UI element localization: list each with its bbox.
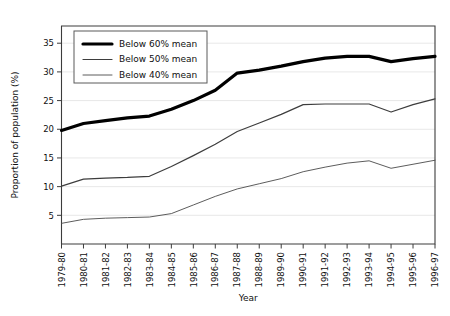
x-axis-ticks: 1979-801980-811981-821982-831983-841984-… [57,244,441,288]
x-tick-label: 1996-97 [430,252,440,288]
y-axis-ticks: 5101520253035 [43,38,61,220]
x-tick-label: 1995-96 [408,252,418,288]
x-tick-label: 1991-92 [320,252,330,288]
x-tick-label: 1986-87 [210,252,220,288]
x-tick-label: 1983-84 [145,252,155,288]
legend-label-0: Below 60% mean [119,39,197,49]
legend-label-2: Below 40% mean [119,70,197,80]
y-tick-label: 15 [43,153,54,163]
chart-legend: Below 60% meanBelow 50% meanBelow 40% me… [74,31,207,83]
series-line-1 [62,99,436,186]
x-tick-label: 1984-85 [167,252,177,288]
x-tick-label: 1985-86 [189,252,199,288]
x-tick-label: 1987-88 [232,252,242,288]
y-tick-label: 25 [43,96,54,106]
y-tick-label: 5 [49,211,54,221]
y-tick-label: 20 [43,124,54,134]
x-tick-label: 1980-81 [79,252,89,288]
x-tick-label: 1989-90 [276,252,286,288]
x-tick-label: 1994-95 [386,252,396,288]
y-tick-label: 30 [43,67,54,77]
chart-figure: 5101520253035 1979-801980-811981-821982-… [0,0,450,316]
y-tick-label: 35 [43,38,54,48]
series-line-2 [62,160,436,223]
line-chart: 5101520253035 1979-801980-811981-821982-… [0,0,450,316]
x-tick-label: 1990-91 [298,252,308,288]
y-axis-title: Proportion of population (%) [10,71,20,198]
x-tick-label: 1982-83 [123,252,133,288]
x-tick-label: 1981-82 [101,252,111,288]
x-tick-label: 1979-80 [57,252,67,288]
legend-label-1: Below 50% mean [119,54,197,64]
x-axis-title: Year [238,293,258,303]
x-tick-label: 1993-94 [364,252,374,288]
x-tick-label: 1992-93 [342,252,352,288]
x-tick-label: 1988-89 [254,252,264,288]
y-tick-label: 10 [43,182,54,192]
